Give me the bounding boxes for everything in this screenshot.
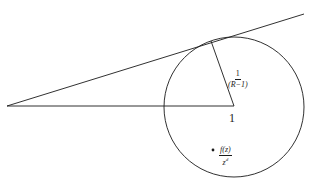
center-label: 1	[229, 112, 235, 124]
diagram-canvas	[0, 0, 309, 180]
disk-circle	[164, 37, 304, 177]
point-denominator: zd	[223, 156, 229, 167]
point-denominator-exponent: d	[226, 157, 229, 162]
radius-numerator: 1	[235, 70, 241, 80]
tangent-line	[7, 14, 304, 106]
radius-denominator: (R−1)	[228, 80, 248, 89]
radius-label: 1 (R−1)	[228, 63, 248, 89]
point-numerator: f(z)	[219, 146, 232, 156]
marked-point-dot	[212, 149, 215, 152]
point-label: f(z) zd	[219, 139, 232, 167]
